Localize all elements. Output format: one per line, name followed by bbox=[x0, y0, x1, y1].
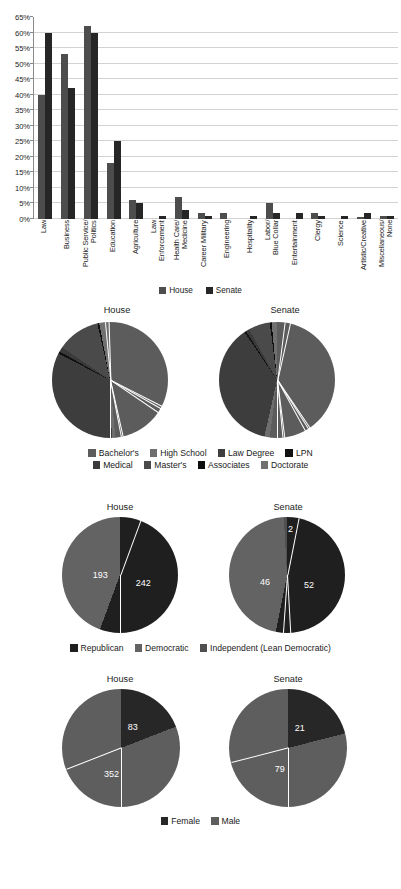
legend-item: High School bbox=[150, 448, 207, 458]
y-axis-tick: 15% bbox=[0, 168, 30, 177]
education-senate-pie bbox=[219, 322, 335, 438]
party-house-title: House bbox=[60, 502, 180, 512]
bar-group bbox=[284, 17, 307, 219]
x-axis-category-labels: LawBusinessPublic Service/ PoliticsEduca… bbox=[33, 220, 398, 282]
bar-house bbox=[38, 95, 45, 219]
x-axis-label: Business bbox=[56, 220, 79, 282]
legend-label: Democratic bbox=[145, 643, 188, 653]
legend-swatch-icon bbox=[70, 644, 78, 652]
y-axis-tick: 50% bbox=[0, 59, 30, 68]
x-axis-label: Labor/ Blue Collar bbox=[261, 220, 284, 282]
y-axis-tick: 5% bbox=[0, 199, 30, 208]
occupation-bar-chart: 65%60%55%50%45%40%35%30%25%20%15%10%5%0%… bbox=[0, 0, 401, 300]
legend-item: Female bbox=[161, 816, 200, 826]
party-house-republican-value: 242 bbox=[136, 578, 151, 588]
bar-house bbox=[357, 217, 364, 219]
education-pie-section: House Senate Bachelor'sHigh SchoolLaw De… bbox=[0, 300, 401, 500]
y-axis-tick-mark bbox=[30, 16, 33, 17]
party-senate-title: Senate bbox=[228, 502, 348, 512]
x-axis-label: Education bbox=[101, 220, 124, 282]
y-axis-tick: 35% bbox=[0, 106, 30, 115]
gender-house-pie: 83 352 bbox=[62, 689, 180, 807]
legend-label: Female bbox=[171, 816, 200, 826]
bar-group bbox=[171, 17, 194, 219]
bar-chart-legend: HouseSenate bbox=[0, 286, 401, 295]
x-axis-label: Hospitality bbox=[238, 220, 261, 282]
gender-pie-section: House Senate 83 352 21 79 FemaleMale bbox=[0, 670, 401, 860]
y-axis-tick: 60% bbox=[0, 28, 30, 37]
legend-label: Doctorate bbox=[271, 460, 308, 470]
bar-house bbox=[380, 216, 387, 219]
bar-group bbox=[216, 17, 239, 219]
gender-senate-male-value: 79 bbox=[275, 764, 285, 774]
pie-slice-divider bbox=[288, 748, 289, 807]
y-axis-tick-mark bbox=[30, 218, 33, 219]
bar-group bbox=[375, 17, 398, 219]
x-axis-label: Artistic/Creative bbox=[352, 220, 375, 282]
bar-senate bbox=[182, 210, 189, 219]
party-senate-independent-value: 2 bbox=[288, 524, 293, 534]
y-axis-tick: 65% bbox=[0, 13, 30, 22]
legend-swatch-icon bbox=[161, 817, 169, 825]
bar-series-container bbox=[34, 17, 398, 219]
legend-label: LPN bbox=[296, 448, 313, 458]
bar-group bbox=[34, 17, 57, 219]
x-axis-label: Law bbox=[33, 220, 56, 282]
education-senate-title: Senate bbox=[225, 305, 345, 315]
bar-group bbox=[80, 17, 103, 219]
y-axis-tick: 30% bbox=[0, 121, 30, 130]
bar-group bbox=[57, 17, 80, 219]
bar-house bbox=[311, 213, 318, 219]
legend-label: Master's bbox=[154, 460, 186, 470]
legend-label: Bachelor's bbox=[99, 448, 139, 458]
pie-slice-divider bbox=[231, 747, 288, 763]
legend-label: Independent (Lean Democratic) bbox=[210, 643, 331, 653]
bar-group bbox=[262, 17, 285, 219]
legend-item: Doctorate bbox=[261, 460, 309, 470]
gender-house-female-value: 83 bbox=[128, 722, 138, 732]
bar-senate bbox=[114, 141, 121, 219]
education-house-pie bbox=[52, 322, 168, 438]
legend-swatch-icon bbox=[206, 287, 213, 294]
bar-senate bbox=[45, 33, 52, 219]
bar-house bbox=[61, 54, 68, 219]
education-house-title: House bbox=[57, 305, 177, 315]
x-axis-label: Career Military bbox=[193, 220, 216, 282]
y-axis-tick: 10% bbox=[0, 183, 30, 192]
bar-house bbox=[266, 203, 273, 219]
bar-group bbox=[353, 17, 376, 219]
y-axis-tick-mark bbox=[30, 156, 33, 157]
bar-senate bbox=[273, 213, 280, 219]
y-axis-tick: 40% bbox=[0, 90, 30, 99]
bar-senate bbox=[341, 216, 348, 219]
legend-item: LPN bbox=[285, 448, 312, 458]
bar-group bbox=[239, 17, 262, 219]
pie-slice-divider bbox=[110, 380, 122, 437]
legend-item: Master's bbox=[144, 460, 187, 470]
y-axis-tick-mark bbox=[30, 125, 33, 126]
gender-house-male-value: 352 bbox=[104, 769, 119, 779]
y-axis-tick-mark bbox=[30, 171, 33, 172]
party-house-democratic-value: 193 bbox=[93, 570, 108, 580]
y-axis-tick: 45% bbox=[0, 75, 30, 84]
bar-senate bbox=[91, 33, 98, 219]
bar-senate bbox=[136, 203, 143, 219]
legend-item: Law Degree bbox=[218, 448, 275, 458]
gender-senate-pie: 21 79 bbox=[229, 689, 347, 807]
y-axis-tick-mark bbox=[30, 47, 33, 48]
legend-item: House bbox=[159, 286, 193, 295]
bar-senate bbox=[296, 213, 303, 219]
y-axis-tick: 20% bbox=[0, 152, 30, 161]
bar-senate bbox=[364, 213, 371, 219]
pie-slice-divider bbox=[120, 520, 141, 575]
y-axis-tick-mark bbox=[30, 78, 33, 79]
x-axis-label: Law Enforcement bbox=[147, 220, 170, 282]
bar-house bbox=[107, 163, 114, 219]
legend-label: High School bbox=[160, 448, 206, 458]
pie-slice-divider bbox=[287, 575, 292, 633]
legend-swatch-icon bbox=[200, 644, 208, 652]
x-axis-label: Health Care/ Medicine bbox=[170, 220, 193, 282]
x-axis-label: Clergy bbox=[307, 220, 330, 282]
y-axis-tick-mark bbox=[30, 32, 33, 33]
legend-label: Law Degree bbox=[228, 448, 274, 458]
